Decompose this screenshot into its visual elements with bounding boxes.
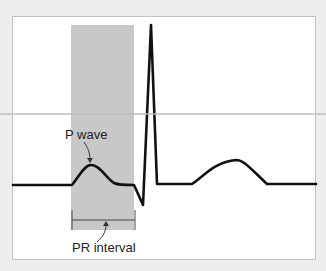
ecg-diagram: [0, 0, 326, 271]
ecg-trace: [13, 25, 316, 205]
pr-interval-label: PR interval: [72, 241, 136, 254]
scan-artifact-line: [0, 113, 326, 115]
p-wave-label: P wave: [65, 128, 107, 141]
